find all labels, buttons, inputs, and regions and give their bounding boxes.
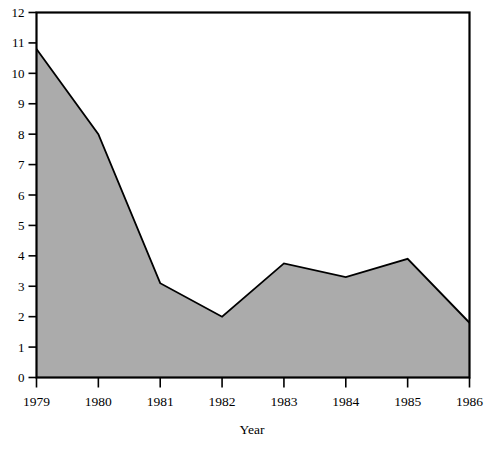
y-tick-label: 8 xyxy=(18,127,25,142)
x-tick-label: 1981 xyxy=(147,394,174,409)
y-tick-label: 0 xyxy=(18,370,25,385)
x-tick-label: 1985 xyxy=(394,394,421,409)
area-chart: 0123456789101112 19791980198119821983198… xyxy=(0,0,504,449)
y-tick-label: 6 xyxy=(18,188,25,203)
y-tick-label: 12 xyxy=(12,5,25,20)
x-tick-label: 1980 xyxy=(85,394,112,409)
y-tick-label: 2 xyxy=(18,309,25,324)
y-tick-label: 9 xyxy=(18,96,25,111)
chart-canvas: 0123456789101112 19791980198119821983198… xyxy=(0,0,504,449)
y-tick-label: 7 xyxy=(18,157,25,172)
x-tick-label: 1982 xyxy=(209,394,236,409)
y-tick-label: 10 xyxy=(12,66,25,81)
y-tick-label: 1 xyxy=(18,340,25,355)
y-tick-label: 11 xyxy=(12,35,25,50)
x-tick-label: 1983 xyxy=(270,394,297,409)
x-tick-label: 1979 xyxy=(23,394,50,409)
y-tick-label: 5 xyxy=(18,218,25,233)
x-tick-label: 1984 xyxy=(332,394,359,409)
x-tick-label: 1986 xyxy=(456,394,483,409)
x-axis-title: Year xyxy=(240,422,265,437)
y-tick-label: 4 xyxy=(18,248,25,263)
y-tick-label: 3 xyxy=(18,279,25,294)
